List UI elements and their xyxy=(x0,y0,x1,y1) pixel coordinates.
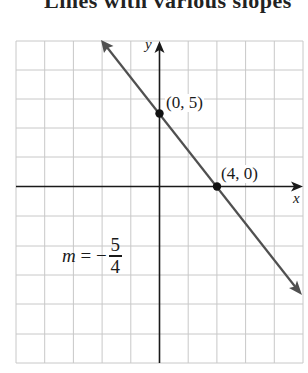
slope-equals: = − xyxy=(76,245,107,267)
point-4-0 xyxy=(213,182,221,190)
arrowhead-upper xyxy=(101,40,114,53)
y-axis-label: y xyxy=(145,36,152,53)
point-label-0-5: (0, 5) xyxy=(165,94,204,112)
slope-denominator: 4 xyxy=(110,258,120,276)
slope-fraction: 5 4 xyxy=(109,236,122,276)
slope-variable: m xyxy=(62,245,76,267)
x-axis-label: x xyxy=(293,190,300,207)
slope-annotation: m = − 5 4 xyxy=(62,236,122,276)
point-label-4-0: (4, 0) xyxy=(220,165,259,183)
y-axis xyxy=(155,41,165,363)
slope-numerator: 5 xyxy=(110,236,120,254)
point-0-5 xyxy=(155,109,163,117)
coordinate-plane xyxy=(0,0,308,373)
